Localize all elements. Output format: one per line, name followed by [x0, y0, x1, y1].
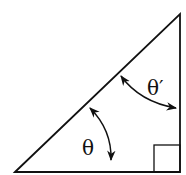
right-triangle-diagram: θ θ′	[0, 0, 186, 175]
theta-prime-label: θ′	[147, 76, 164, 100]
theta-label: θ	[82, 136, 94, 160]
right-angle-marker	[154, 145, 180, 172]
